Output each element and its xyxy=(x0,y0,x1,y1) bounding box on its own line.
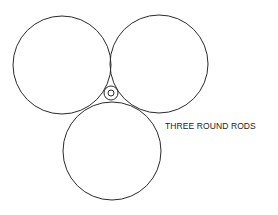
center-rod-outer xyxy=(104,86,118,100)
center-rod-inner xyxy=(108,90,114,96)
three-rods-diagram xyxy=(0,0,278,215)
diagram-label: THREE ROUND RODS xyxy=(165,121,256,131)
left-rod xyxy=(13,16,111,114)
right-rod xyxy=(110,15,208,113)
bottom-rod xyxy=(63,102,161,200)
